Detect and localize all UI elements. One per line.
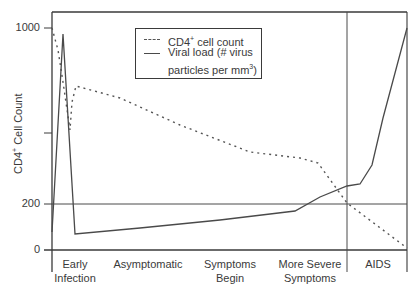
- phase-label-early-line1: Early: [52, 257, 98, 271]
- phase-label-severe-line2: Symptoms: [272, 271, 348, 285]
- y-axis-title-rest: Cell Count: [12, 93, 24, 147]
- y-axis-title-sup: +: [11, 148, 18, 152]
- phase-label-asymptomatic: Asymptomatic: [108, 257, 188, 271]
- y-tick-label-200: 200: [0, 197, 40, 209]
- y-axis-title: CD4+ Cell Count: [11, 93, 24, 174]
- phase-label-aids: AIDS: [350, 257, 406, 271]
- phase-label-early-line2: Infection: [52, 271, 98, 285]
- phase-label-severe-line1: More Severe: [272, 257, 348, 271]
- legend-viral-line2-prefix: particles per mm: [168, 64, 249, 76]
- legend-viral-line2-suffix: ): [253, 64, 257, 76]
- y-tick-label-1000: 1000: [0, 21, 40, 33]
- phase-label-early-infection: Early Infection: [52, 257, 98, 285]
- y-axis-title-main: CD4: [12, 152, 24, 174]
- phase-label-more-severe: More Severe Symptoms: [272, 257, 348, 285]
- legend-viral-line2: particles per mm3): [168, 60, 257, 77]
- legend-viral-line1: Viral load (# virus: [168, 46, 253, 59]
- phase-label-symptoms-line2: Begin: [195, 271, 265, 285]
- phase-label-symptoms-line1: Symptoms: [195, 257, 265, 271]
- legend-solid-swatch-icon: [144, 53, 160, 54]
- chart-legend: CD4+ cell count Viral load (# virus part…: [135, 28, 262, 79]
- y-tick-label-0: 0: [0, 243, 40, 255]
- phase-label-symptoms-begin: Symptoms Begin: [195, 257, 265, 285]
- legend-dashed-swatch-icon: [144, 39, 160, 40]
